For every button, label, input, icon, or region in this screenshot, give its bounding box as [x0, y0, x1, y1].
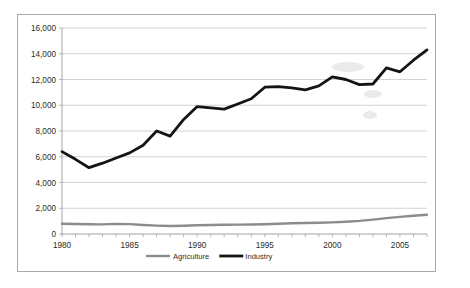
- y-axis-tick-labels: 02,0004,0006,0008,00010,00012,00014,0001…: [31, 24, 56, 239]
- x-axis-tick-label: 1990: [188, 241, 207, 250]
- scan-artifact: [332, 62, 364, 72]
- y-axis-tick-label: 4,000: [36, 179, 57, 188]
- y-axis-tick-label: 8,000: [36, 127, 57, 136]
- y-axis-tick-label: 10,000: [31, 101, 56, 110]
- line-chart: 02,0004,0006,0008,00010,00012,00014,0001…: [18, 15, 437, 273]
- x-axis-tick-label: 1985: [120, 241, 139, 250]
- legend-label-agriculture: Agriculture: [173, 252, 209, 261]
- y-axis-tick-label: 6,000: [36, 153, 57, 162]
- x-axis-tick-label: 2005: [391, 241, 410, 250]
- x-axis-tick-label: 2000: [323, 241, 342, 250]
- chart-figure: 02,0004,0006,0008,00010,00012,00014,0001…: [17, 14, 436, 272]
- scan-artifact: [363, 111, 377, 119]
- y-axis-tick-label: 16,000: [31, 24, 56, 33]
- y-axis-tick-label: 0: [51, 230, 56, 239]
- x-axis-tick-label: 1980: [53, 241, 72, 250]
- x-axis-tick-label: 1995: [256, 241, 275, 250]
- y-axis-tick-label: 14,000: [31, 50, 56, 59]
- y-axis-tick-label: 2,000: [36, 204, 57, 213]
- scan-artifact: [364, 90, 382, 98]
- legend-label-industry: Industry: [245, 252, 272, 261]
- chart-legend: Agriculture Industry: [146, 252, 273, 261]
- y-axis-tick-label: 12,000: [31, 76, 56, 85]
- x-axis-tick-labels: 198019851990199520002005: [53, 241, 410, 250]
